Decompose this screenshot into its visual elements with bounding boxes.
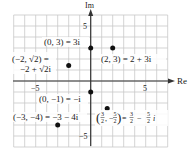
real-axis-label: Re bbox=[177, 76, 187, 86]
svg-text:=: = bbox=[122, 114, 127, 123]
point-neg-i bbox=[88, 90, 93, 95]
x-tick-label-neg5: −5 bbox=[31, 84, 40, 93]
svg-text:3: 3 bbox=[130, 111, 133, 117]
label-neg2-sqrt2-line1: (−2, √2) = bbox=[12, 54, 49, 64]
y-tick-label-5: 5 bbox=[83, 22, 87, 31]
label-neg2-sqrt2-line2: −2 + √2i bbox=[20, 64, 52, 74]
label-neg-i: (0, −1) = −i bbox=[39, 94, 81, 104]
svg-text:2: 2 bbox=[147, 118, 150, 124]
svg-text:−: − bbox=[137, 114, 142, 123]
point-neg2-plus-sqrt2i bbox=[66, 63, 71, 68]
label-2-plus-3i: (2, 3) = 2 + 3i bbox=[101, 54, 152, 64]
real-axis-arrow-icon bbox=[168, 79, 175, 84]
point-2-plus-3i bbox=[110, 46, 115, 51]
svg-text:i: i bbox=[153, 114, 155, 123]
svg-text:2: 2 bbox=[101, 118, 104, 124]
point-neg3-minus-4i bbox=[55, 123, 60, 128]
svg-text:(: ( bbox=[96, 110, 100, 125]
label-3i: (0, 3) = 3i bbox=[44, 37, 81, 47]
y-tick-label-neg5: −5 bbox=[79, 132, 88, 141]
imaginary-axis-label: Im bbox=[85, 1, 95, 10]
imaginary-axis-arrow-icon bbox=[88, 9, 93, 16]
complex-plane-diagram: Re Im −5 5 5 −5 (0, 3) = 3i (2, 3) = 2 +… bbox=[0, 0, 188, 154]
svg-text:3: 3 bbox=[101, 111, 104, 117]
x-tick-label-5: 5 bbox=[143, 84, 147, 93]
svg-text:): ) bbox=[117, 110, 121, 125]
svg-text:2: 2 bbox=[130, 118, 133, 124]
svg-text:5: 5 bbox=[147, 111, 150, 117]
label-neg3-minus-4i: (−3, −4) = −3 − 4i bbox=[13, 112, 79, 122]
